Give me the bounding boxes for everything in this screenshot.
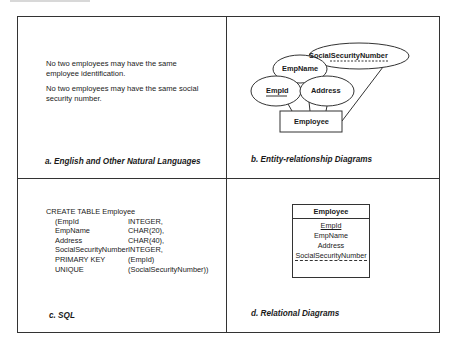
ssn-attribute-label: SocialSecurityNumber — [309, 51, 409, 61]
sql-row-3-col-1: Address — [55, 236, 82, 246]
field-ssn-unique: SocialSecurityNumber — [295, 251, 366, 261]
sql-row-4-col-2: INTEGER, — [128, 245, 163, 255]
sql-row-2-col-1: EmpName — [55, 226, 90, 236]
sql-row-4-col-1: SocialSecurityNumber — [55, 245, 128, 255]
sql-row-1-col-1: (EmpId — [55, 217, 79, 227]
connector-empid — [288, 104, 292, 111]
relation-table-name: Employee — [293, 205, 369, 219]
sql-create-table: CREATE TABLE Employee — [46, 207, 135, 217]
sql-row-5-col-1: PRIMARY KEY — [55, 255, 105, 265]
caption-c: c. SQL — [49, 311, 75, 320]
address-attribute-label: Address — [311, 86, 341, 96]
sql-row-6-col-2: (SocialSecurityNumber)) — [128, 265, 209, 275]
sql-row-3-col-2: CHAR(40), — [128, 236, 164, 246]
sql-row-5-col-2: (EmpId) — [128, 255, 154, 265]
employee-entity-label: Employee — [294, 117, 329, 127]
sql-row-2-col-2: CHAR(20), — [128, 226, 164, 236]
empid-attribute-label: EmpId — [266, 86, 289, 96]
connector-address — [326, 106, 327, 111]
field-empname: EmpName — [314, 231, 348, 240]
field-address: Address — [318, 241, 344, 250]
caption-d: d. Relational Diagrams — [251, 309, 339, 318]
caption-b: b. Entity-relationship Diagrams — [251, 155, 372, 164]
sql-row-1-col-2: INTEGER, — [128, 217, 163, 227]
relation-table-box: Employee EmpId EmpName Address SocialSec… — [292, 204, 370, 278]
field-empid-primary-key: EmpId — [321, 221, 342, 230]
sql-row-6-col-1: UNIQUE — [55, 265, 84, 275]
empname-attribute-label: EmpName — [282, 64, 318, 74]
